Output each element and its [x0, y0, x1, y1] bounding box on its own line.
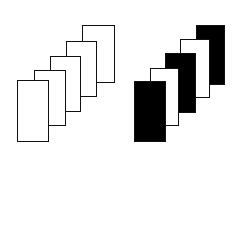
card-rectangle — [17, 80, 49, 142]
card-rectangle — [134, 81, 166, 142]
